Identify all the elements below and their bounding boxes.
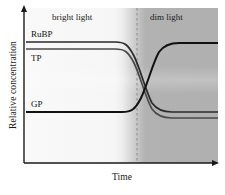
series-label-gp: GP [31, 99, 43, 109]
series-label-tp: TP [31, 53, 42, 63]
series-label-rubp: RuBP [31, 29, 53, 39]
region-label-bright-light: bright light [52, 12, 92, 22]
region-label-dim-light: dim light [150, 12, 183, 22]
plot-background [26, 8, 218, 163]
y-axis-title: Relative concentration [8, 20, 18, 150]
x-axis-title: Time [26, 172, 218, 182]
chart-figure: bright light dim light RuBP TP GP Relati… [0, 0, 225, 195]
